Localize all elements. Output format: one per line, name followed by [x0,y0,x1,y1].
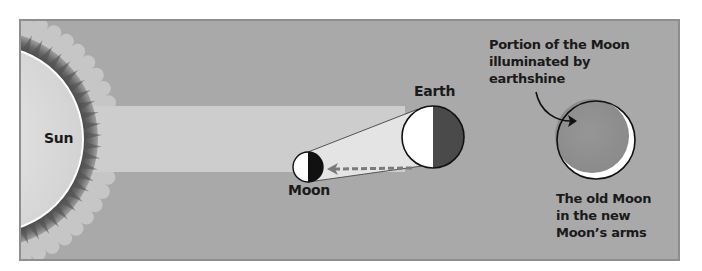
earth-label: Earth [414,83,455,99]
callout-line: Portion of the Moon [489,36,659,53]
caption-line: The old Moon [556,190,686,207]
caption-line: Moon’s arms [556,224,686,241]
earth [402,106,464,168]
earthshine-moon [555,99,635,179]
callout-line: illuminated by [489,53,659,70]
caption-line: in the new [556,207,686,224]
earthshine-callout: Portion of the Moon illuminated by earth… [489,36,659,87]
moon [293,152,323,182]
callout-line: earthshine [489,70,659,87]
old-moon-caption: The old Moon in the new Moon’s arms [556,190,686,241]
moon-label: Moon [288,182,330,198]
sun-label: Sun [44,130,73,146]
